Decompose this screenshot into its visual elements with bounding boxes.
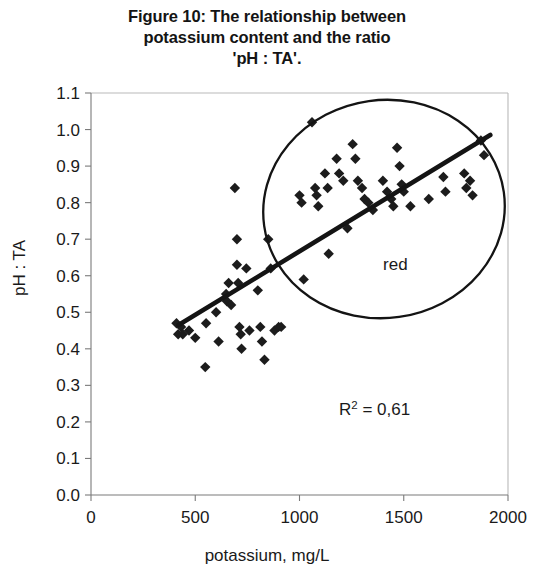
data-point [467,190,477,200]
y-tick-label: 0.6 [56,267,80,286]
data-point [257,336,267,346]
data-point [296,197,306,207]
scatter-plot: 0.00.10.20.30.40.50.60.70.80.91.01.1 050… [0,0,534,574]
y-tick-label: 0.5 [56,303,80,322]
data-point [323,249,333,259]
data-point [253,285,263,295]
data-point [322,183,332,193]
y-tick-label: 0.0 [56,486,80,505]
data-point [331,154,341,164]
group-label-red: red [383,255,408,274]
figure-container: Figure 10: The relationship between pota… [0,0,534,574]
data-point [200,362,210,372]
plot-frame [91,93,508,495]
data-point [298,274,308,284]
data-point [211,307,221,317]
x-tick-label: 2000 [489,508,527,527]
data-point [424,194,434,204]
data-point [405,201,415,211]
data-point [320,168,330,178]
data-point [223,278,233,288]
y-tick-label: 0.9 [56,157,80,176]
red-group-ellipse [249,84,519,334]
data-point [294,190,304,200]
data-point [201,318,211,328]
data-point [350,154,360,164]
data-point [232,234,242,244]
data-point [392,143,402,153]
data-point [232,260,242,270]
r-squared-annotation: R2 = 0,61 [339,399,410,419]
y-tick-label: 0.8 [56,194,80,213]
data-point [236,344,246,354]
highlight-ellipse [249,84,519,334]
y-tick-label: 0.2 [56,413,80,432]
y-tick-label: 1.1 [56,84,80,103]
y-tick-label: 1.0 [56,121,80,140]
annotations: R2 = 0,61red [339,255,410,418]
data-point [241,263,251,273]
data-point [347,139,357,149]
data-point [311,190,321,200]
data-point [213,336,223,346]
x-tick-label: 1000 [281,508,319,527]
x-axis-ticks: 0500100015002000 [86,495,527,527]
data-point [230,183,240,193]
data-points [171,117,489,372]
data-point [394,161,404,171]
y-tick-label: 0.3 [56,376,80,395]
data-point [313,201,323,211]
y-tick-label: 0.7 [56,230,80,249]
y-axis-ticks: 0.00.10.20.30.40.50.60.70.80.91.01.1 [56,84,91,505]
y-tick-label: 0.4 [56,340,80,359]
x-tick-label: 500 [181,508,209,527]
data-point [440,186,450,196]
data-point [438,172,448,182]
data-point [459,168,469,178]
data-point [378,176,388,186]
y-tick-label: 0.1 [56,449,80,468]
data-point [255,322,265,332]
regression-line [179,135,491,325]
data-point [388,201,398,211]
data-point [190,333,200,343]
trend-line [179,135,491,325]
data-point [259,355,269,365]
x-tick-label: 1500 [385,508,423,527]
x-tick-label: 0 [86,508,95,527]
